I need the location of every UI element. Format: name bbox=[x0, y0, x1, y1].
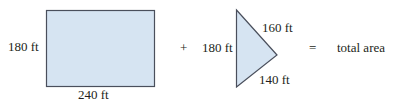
total-area-label: total area bbox=[337, 41, 385, 54]
diagram-shapes bbox=[0, 0, 394, 101]
equals-sign: = bbox=[309, 41, 316, 54]
plus-sign: + bbox=[180, 41, 187, 54]
triangle-upper-right-label: 160 ft bbox=[262, 21, 293, 34]
rectangle-height-label: 180 ft bbox=[8, 40, 39, 53]
rectangle-width-label: 240 ft bbox=[78, 88, 109, 101]
triangle-lower-right-label: 140 ft bbox=[259, 73, 290, 86]
triangle-left-label: 180 ft bbox=[202, 41, 233, 54]
rectangle-shape bbox=[47, 11, 155, 87]
